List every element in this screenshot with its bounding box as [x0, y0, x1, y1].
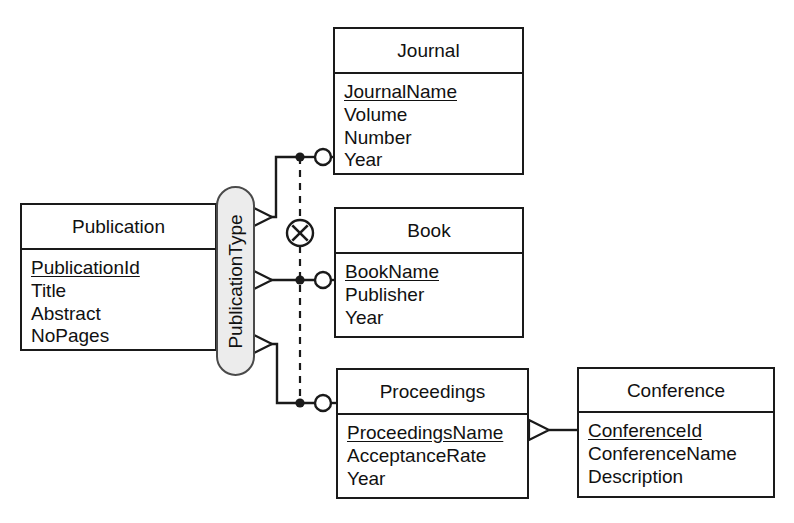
discriminator-publicationtype[interactable]: PublicationType [216, 186, 255, 376]
entity-journal-attributes: JournalName Volume Number Year [335, 74, 522, 178]
attribute-conferencename: ConferenceName [588, 443, 773, 466]
entity-conference-attributes: ConferenceId ConferenceName Description [579, 413, 773, 494]
attribute-nopages: NoPages [31, 325, 215, 348]
xor-junction-dot-book [295, 275, 304, 284]
attribute-acceptancerate: AcceptanceRate [347, 445, 527, 468]
optional-circle-icon-proceedings [315, 395, 331, 411]
attribute-bookname: BookName [345, 261, 522, 284]
crowsfoot-arrow-icon-conference [529, 420, 549, 440]
entity-journal[interactable]: Journal JournalName Volume Number Year [333, 27, 524, 175]
entity-publication-attributes: PublicationId Title Abstract NoPages [22, 250, 215, 354]
attribute-publicationid: PublicationId [31, 257, 215, 280]
er-diagram-canvas: Publication PublicationId Title Abstract… [0, 0, 794, 523]
entity-book-attributes: BookName Publisher Year [336, 254, 522, 335]
xor-junction-dot-journal [295, 152, 304, 161]
attribute-conferenceid: ConferenceId [588, 420, 773, 443]
attribute-abstract: Abstract [31, 303, 215, 326]
xor-constraint-icon [287, 220, 313, 246]
entity-proceedings-attributes: ProceedingsName AcceptanceRate Year [338, 415, 527, 496]
attribute-title: Title [31, 280, 215, 303]
xor-junction-dot-proceedings [295, 398, 304, 407]
entity-book[interactable]: Book BookName Publisher Year [334, 207, 524, 338]
entity-book-title: Book [336, 209, 522, 254]
attribute-year-book: Year [345, 307, 522, 330]
connector-publicationtype-proceedings [255, 344, 316, 403]
attribute-proceedingsname: ProceedingsName [347, 422, 527, 445]
entity-proceedings-title: Proceedings [338, 370, 527, 415]
attribute-description: Description [588, 466, 773, 489]
attribute-volume: Volume [344, 104, 522, 127]
entity-publication-title: Publication [22, 205, 215, 250]
optional-circle-icon-book [315, 272, 331, 288]
optional-circle-icon-journal [315, 149, 331, 165]
discriminator-label: PublicationType [226, 214, 245, 348]
entity-conference[interactable]: Conference ConferenceId ConferenceName D… [577, 367, 775, 498]
entity-publication[interactable]: Publication PublicationId Title Abstract… [20, 203, 217, 351]
crowsfoot-arrow-icon-proceedings [252, 334, 272, 354]
attribute-number: Number [344, 127, 522, 150]
connector-publicationtype-journal [255, 157, 300, 217]
entity-conference-title: Conference [579, 369, 773, 413]
crowsfoot-arrow-icon-book [252, 270, 272, 290]
entity-proceedings[interactable]: Proceedings ProceedingsName AcceptanceRa… [336, 368, 529, 499]
attribute-publisher: Publisher [345, 284, 522, 307]
attribute-year-journal: Year [344, 149, 522, 172]
entity-journal-title: Journal [335, 29, 522, 74]
attribute-year-proceedings: Year [347, 468, 527, 491]
crowsfoot-arrow-icon-journal [252, 207, 272, 227]
attribute-journalname: JournalName [344, 81, 522, 104]
